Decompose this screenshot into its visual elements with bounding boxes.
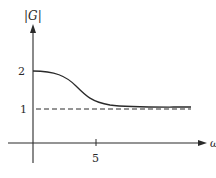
chart-canvas: |G| 2 1 5 ω — [0, 0, 216, 178]
y-tick-label-2: 2 — [18, 65, 25, 78]
y-tick-label-1: 1 — [20, 103, 27, 116]
y-axis-label: |G| — [24, 9, 42, 23]
x-axis-arrowhead-icon — [198, 140, 207, 146]
y-axis-arrowhead-icon — [30, 24, 36, 33]
x-axis-label: ω — [210, 137, 216, 150]
magnitude-curve — [33, 71, 191, 107]
x-tick-label-5: 5 — [92, 152, 99, 165]
